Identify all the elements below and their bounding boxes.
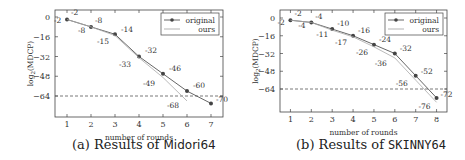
- data-label-original: -4: [315, 12, 323, 21]
- x-tick-label: 3: [112, 120, 117, 129]
- x-tick-label: 6: [392, 115, 397, 124]
- y-tick-label: −32: [33, 53, 50, 62]
- data-label-ours: -56: [396, 79, 408, 88]
- legend-label-ours: ours: [422, 25, 439, 34]
- legend-label-original: original: [410, 16, 440, 25]
- data-label-original: -46: [169, 64, 181, 73]
- x-tick-label: 5: [371, 115, 376, 124]
- x-tick-label: 1: [64, 120, 69, 129]
- data-label-original: -14: [121, 25, 133, 34]
- data-label-original: -52: [421, 67, 433, 76]
- legend-label-ours: ours: [198, 25, 215, 34]
- data-label-ours: -8: [78, 26, 86, 35]
- caption-cipher-name: SKINNY64: [388, 138, 446, 152]
- data-point-original: [435, 96, 439, 100]
- chart-skinny64: 0−16−32−48−6412345678number of roundslog…: [232, 0, 465, 160]
- data-label-ours: -49: [143, 79, 155, 88]
- data-label-original: -60: [193, 81, 205, 90]
- legend-label-original: original: [186, 16, 216, 25]
- data-label-ours: -33: [119, 60, 131, 69]
- data-label-original: -24: [379, 35, 391, 44]
- x-tick-label: 2: [309, 115, 314, 124]
- x-tick-label: 7: [208, 120, 213, 129]
- x-tick-label: 7: [413, 115, 418, 124]
- caption-prefix: (a) Results of: [72, 137, 164, 152]
- data-label-ours: -2: [277, 18, 285, 27]
- chart-midori64: 0−16−32−48−641234567number of roundslog2…: [0, 0, 232, 160]
- y-tick-label: −64: [258, 85, 275, 94]
- y-axis-label: log2(MDCP): [26, 41, 36, 87]
- y-tick-label: 0: [45, 13, 50, 22]
- data-label-ours: -36: [375, 59, 387, 68]
- data-label-ours: -11: [316, 30, 328, 39]
- data-point-original: [414, 74, 418, 78]
- data-label-original: -10: [337, 19, 349, 28]
- data-point-original: [393, 52, 397, 56]
- data-point-original: [209, 101, 213, 105]
- x-tick-label: 4: [136, 120, 141, 129]
- data-label-original: -72: [441, 90, 453, 99]
- x-axis-label: number of rounds: [329, 128, 397, 137]
- data-label-ours: -17: [335, 38, 347, 47]
- y-tick-label: −64: [33, 92, 50, 101]
- data-label-ours: -2: [54, 16, 62, 25]
- y-tick-label: −32: [258, 50, 275, 59]
- caption-skinny64: (b) Results of SKINNY64: [296, 137, 446, 152]
- x-tick-label: 8: [434, 115, 439, 124]
- x-tick-label: 6: [184, 120, 189, 129]
- x-tick-label: 5: [160, 120, 165, 129]
- data-label-original: -32: [400, 44, 412, 53]
- data-label-original: -2: [294, 9, 302, 18]
- y-tick-label: −16: [33, 33, 50, 42]
- chart-midori64-plot: 0−16−32−48−641234567number of roundslog2…: [0, 0, 232, 140]
- x-tick-label: 3: [330, 115, 335, 124]
- data-label-ours: -76: [419, 102, 431, 111]
- y-tick-label: 0: [270, 14, 275, 23]
- data-label-original: -2: [71, 8, 79, 17]
- data-label-ours: -4: [298, 21, 306, 30]
- data-label-original: -16: [358, 26, 370, 35]
- x-tick-label: 1: [288, 115, 293, 124]
- data-label-original: -8: [95, 16, 103, 25]
- legend: originalours: [161, 13, 219, 35]
- data-point-original: [185, 89, 189, 93]
- data-label-original: -32: [145, 46, 157, 55]
- data-point-original: [161, 72, 165, 76]
- data-label-ours: -15: [97, 37, 109, 46]
- chart-skinny64-plot: 0−16−32−48−6412345678number of roundslog…: [232, 0, 465, 140]
- legend: originalours: [385, 13, 443, 35]
- caption-midori64: (a) Results of Midori64: [72, 137, 216, 152]
- data-label-original: -70: [216, 95, 228, 104]
- caption-prefix: (b) Results of: [296, 137, 388, 152]
- x-tick-label: 2: [88, 120, 93, 129]
- x-tick-label: 4: [351, 115, 356, 124]
- data-label-ours: -68: [167, 101, 179, 110]
- y-axis-label: log2(MDCP): [251, 38, 261, 84]
- y-tick-label: −16: [258, 32, 275, 41]
- caption-cipher-name: Midori64: [164, 138, 216, 152]
- data-label-ours: -26: [356, 48, 368, 57]
